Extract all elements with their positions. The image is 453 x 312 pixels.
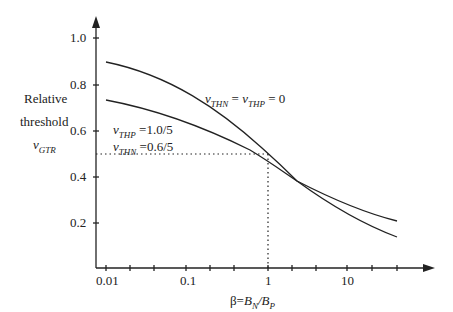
y-tick-label: 0.4: [70, 169, 86, 185]
y-axis-label-line2: threshold: [20, 114, 68, 130]
y-tick-label: 0.2: [70, 215, 86, 231]
dotted-guides: [96, 154, 268, 268]
annotation-zero-threshold: vTHN = vTHP = 0: [205, 91, 285, 109]
y-axis-label-line3: vGTR: [33, 137, 56, 155]
curve-nonzero-threshold: [106, 100, 397, 221]
y-axis-arrow-icon: [92, 16, 100, 28]
annotation-vthp: vTHP =1.0/5: [113, 122, 173, 140]
y-tick-label: 0.6: [70, 123, 86, 139]
x-tick-label: 10: [341, 273, 354, 289]
y-axis-label-line1: Relative: [24, 91, 67, 107]
y-tick-label: 0.8: [70, 77, 86, 93]
x-tick-label: 0.01: [96, 273, 119, 289]
annotation-vthn: vTHN =0.6/5: [113, 139, 173, 157]
y-tick-label: 1.0: [70, 30, 86, 46]
chart-canvas: [0, 0, 453, 312]
x-axis-label: β=BN/BP: [230, 293, 275, 311]
x-tick-label: 0.1: [180, 273, 196, 289]
x-tick-label: 1: [265, 273, 272, 289]
x-axis-arrow-icon: [423, 264, 435, 272]
